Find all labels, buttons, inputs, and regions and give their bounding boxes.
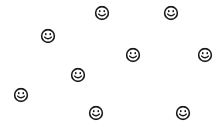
smiley-face-icon <box>176 106 191 121</box>
smiley-face-icon <box>164 6 179 21</box>
smiley-face-icon <box>14 88 29 103</box>
smiley-face-icon <box>71 68 86 83</box>
smiley-face-icon <box>89 106 104 121</box>
smiley-face-icon <box>41 29 56 44</box>
smiley-face-icon <box>198 48 213 63</box>
smiley-scatter-canvas <box>0 0 220 127</box>
smiley-face-icon <box>95 6 110 21</box>
smiley-face-icon <box>126 48 141 63</box>
